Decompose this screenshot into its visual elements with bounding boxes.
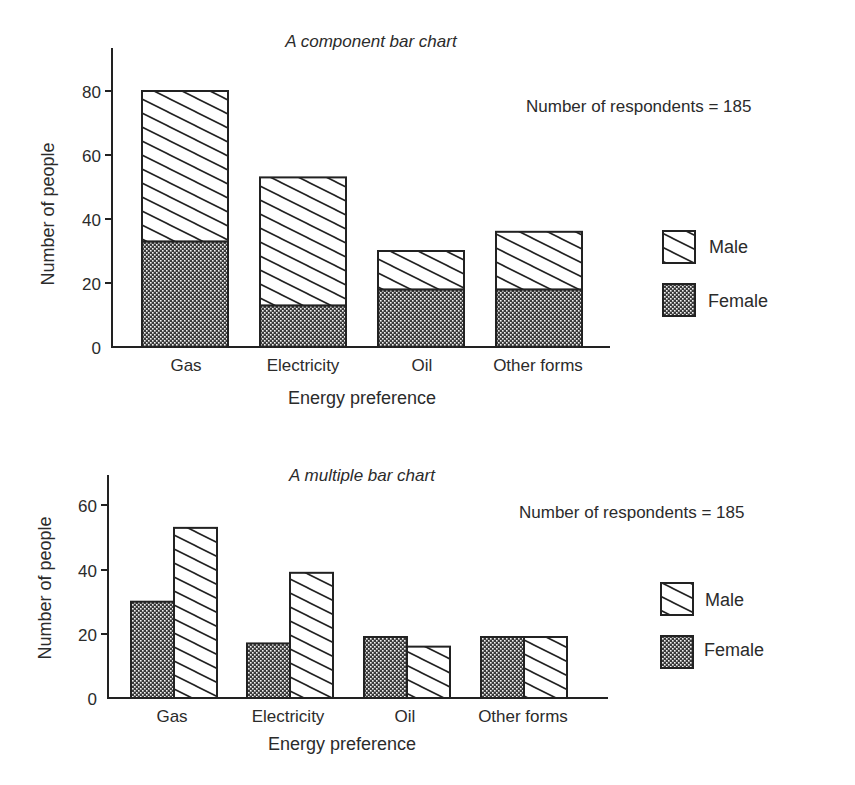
- bar-male: [174, 528, 217, 698]
- y-tick-label: 80: [82, 83, 101, 102]
- bar-group: [142, 91, 582, 347]
- male-swatch-icon: [663, 231, 695, 263]
- chart-title: A component bar chart: [284, 32, 458, 51]
- multiple-bar-chart: A multiple bar chart Number of responden…: [35, 466, 764, 754]
- x-category-label: Oil: [395, 707, 416, 726]
- x-category-label: Oil: [412, 356, 433, 375]
- legend-label-male: Male: [705, 590, 744, 610]
- bar-female: [496, 289, 582, 347]
- x-axis-label: Energy preference: [268, 734, 416, 754]
- bar-female: [260, 305, 346, 347]
- female-swatch-icon: [663, 284, 695, 316]
- x-category-label: Electricity: [267, 356, 340, 375]
- y-tick-label: 20: [78, 626, 97, 645]
- legend-label-female: Female: [708, 291, 768, 311]
- respondents-note: Number of respondents = 185: [526, 97, 751, 116]
- x-category-label: Other forms: [493, 356, 583, 375]
- y-tick-label: 60: [78, 497, 97, 516]
- legend: Male Female: [663, 231, 768, 316]
- respondents-note: Number of respondents = 185: [519, 503, 744, 522]
- bar-male: [142, 91, 228, 241]
- bar-female: [131, 602, 174, 698]
- female-swatch-icon: [661, 636, 693, 668]
- bar-male: [260, 177, 346, 305]
- bar-group: [131, 528, 567, 698]
- y-tick-label: 60: [82, 147, 101, 166]
- y-axis-label: Number of people: [35, 516, 55, 659]
- y-tick-label: 40: [78, 562, 97, 581]
- bar-male: [496, 232, 582, 290]
- bar-female: [142, 241, 228, 347]
- x-category-label: Gas: [170, 356, 201, 375]
- y-tick-label: 0: [92, 339, 101, 358]
- x-category-label: Other forms: [478, 707, 568, 726]
- bar-female: [364, 637, 407, 698]
- chart-title: A multiple bar chart: [288, 466, 436, 485]
- legend-label-male: Male: [709, 237, 748, 257]
- legend-label-female: Female: [704, 640, 764, 660]
- bar-male: [290, 573, 333, 698]
- y-axis: 0 20 40 60: [78, 475, 108, 709]
- male-swatch-icon: [661, 583, 693, 615]
- y-tick-label: 20: [82, 275, 101, 294]
- y-tick-label: 40: [82, 211, 101, 230]
- figure-canvas: A component bar chart Number of responde…: [0, 0, 855, 785]
- legend: Male Female: [661, 583, 764, 668]
- y-tick-label: 0: [88, 690, 97, 709]
- y-axis: 0 20 40 60 80: [82, 48, 112, 358]
- y-axis-label: Number of people: [38, 142, 58, 285]
- bar-male: [524, 637, 567, 698]
- bar-male: [378, 251, 464, 289]
- bar-female: [247, 643, 290, 698]
- bar-female: [378, 289, 464, 347]
- bar-female: [481, 637, 524, 698]
- component-bar-chart: A component bar chart Number of responde…: [38, 32, 768, 408]
- bar-male: [407, 647, 450, 698]
- x-category-label: Gas: [156, 707, 187, 726]
- x-axis-label: Energy preference: [288, 388, 436, 408]
- x-category-label: Electricity: [252, 707, 325, 726]
